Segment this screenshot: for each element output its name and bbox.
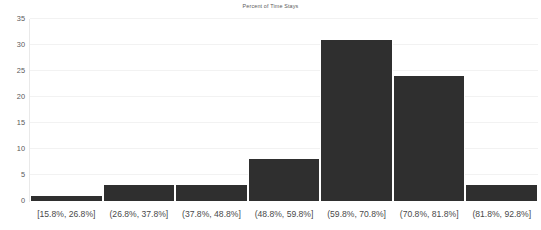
bar-slot (465, 19, 538, 201)
bar[interactable] (393, 76, 466, 201)
bar-slot (30, 19, 103, 201)
x-axis: [15.8%, 26.8%](26.8%, 37.8%](37.8%, 48.8… (30, 203, 538, 227)
bar[interactable] (103, 185, 176, 201)
y-axis-tick-label: 35 (17, 15, 25, 23)
y-axis-tick-label: 15 (17, 119, 25, 127)
y-axis-tick-label: 30 (17, 41, 25, 49)
x-axis-tick-label: (37.8%, 48.8%] (175, 203, 248, 227)
bar-series (30, 19, 538, 201)
bar[interactable] (175, 185, 248, 201)
bar[interactable] (320, 40, 393, 201)
bar-slot (103, 19, 176, 201)
x-axis-tick-label: (59.8%, 70.8%] (320, 203, 393, 227)
bar-slot (320, 19, 393, 201)
y-axis-tick-label: 0 (21, 197, 25, 205)
bar[interactable] (465, 185, 538, 201)
y-axis-tick-label: 25 (17, 67, 25, 75)
y-axis-tick-label: 10 (17, 145, 25, 153)
y-axis-tick-label: 5 (21, 171, 25, 179)
x-axis-tick-label: (48.8%, 59.8%] (248, 203, 321, 227)
x-axis-tick-label: (26.8%, 37.8%] (103, 203, 176, 227)
bar-slot (393, 19, 466, 201)
bar-slot (248, 19, 321, 201)
bar[interactable] (248, 159, 321, 201)
bar-slot (175, 19, 248, 201)
x-axis-tick-label: [15.8%, 26.8%] (30, 203, 103, 227)
x-axis-tick-label: (81.8%, 92.8%] (465, 203, 538, 227)
chart-title: Percent of Time Stays (0, 3, 541, 10)
plot-area (30, 19, 538, 201)
histogram-chart: Percent of Time Stays 05101520253035 [15… (0, 0, 541, 230)
bar[interactable] (30, 196, 103, 201)
y-axis: 05101520253035 (0, 0, 30, 230)
x-axis-tick-label: (70.8%, 81.8%] (393, 203, 466, 227)
y-axis-tick-label: 20 (17, 93, 25, 101)
